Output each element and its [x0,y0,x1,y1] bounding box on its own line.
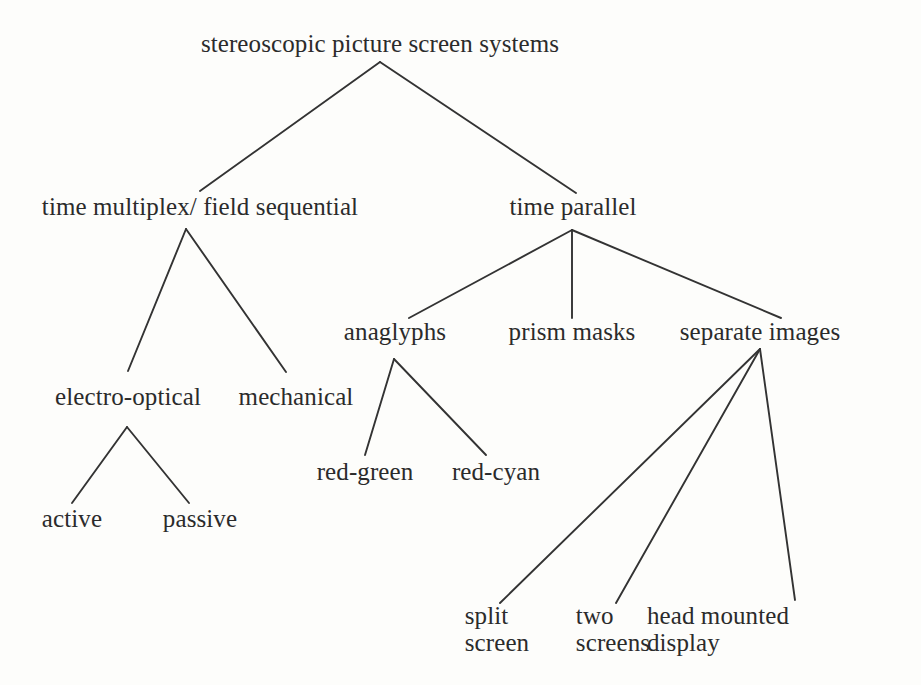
tree-edge [128,229,186,371]
tree-node-split_screen: splitscreen [465,603,529,656]
tree-node-passive: passive [163,505,237,532]
node-label-line2: screens [576,630,650,657]
tree-edge [760,349,795,600]
taxonomy-diagram: stereoscopic picture screen systemstime … [0,0,921,685]
tree-node-electro_optical: electro-optical [55,383,201,410]
tree-edge [127,427,189,503]
tree-edge [409,230,572,318]
tree-edge [200,62,380,191]
tree-edge [616,349,760,603]
tree-node-anaglyphs: anaglyphs [344,318,446,345]
tree-node-separate_images: separate images [680,318,840,345]
tree-node-root: stereoscopic picture screen systems [201,30,559,57]
tree-node-red_cyan: red-cyan [452,458,540,485]
tree-node-red_green: red-green [317,458,414,485]
tree-edge [186,229,286,372]
node-label-line2: screen [465,630,529,657]
tree-node-time_multiplex: time multiplex/ field sequential [42,193,358,220]
tree-node-head_mounted: head mounteddisplay [647,603,789,656]
tree-node-prism_masks: prism masks [509,318,636,345]
tree-edge [394,359,486,455]
tree-edge [365,359,394,455]
tree-node-active: active [42,505,102,532]
node-label-line1: head mounted [647,602,789,629]
tree-edge [380,62,576,193]
tree-edge [572,230,781,318]
tree-node-two_screens: twoscreens [576,603,650,656]
node-label-line2: display [647,630,789,657]
tree-node-time_parallel: time parallel [510,193,637,220]
node-label-line1: two [576,602,614,629]
node-label-line1: split [465,602,509,629]
tree-edge [72,427,127,503]
tree-node-mechanical: mechanical [239,383,354,410]
